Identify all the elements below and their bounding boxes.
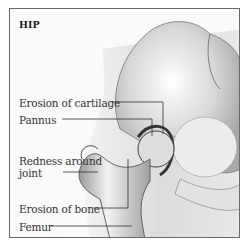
label-pannus: Pannus (19, 114, 56, 126)
label-joint: joint (19, 167, 42, 179)
diagram-title: HIP (19, 19, 40, 30)
label-erosion-of-bone: Erosion of bone (19, 203, 100, 215)
label-femur: Femur (19, 221, 53, 233)
label-erosion-of-cartilage: Erosion of cartilage (19, 97, 120, 109)
hip-diagram-frame: HIP Erosion of cartilage Pannus Redness … (9, 8, 240, 238)
label-redness-around: Redness around (19, 155, 102, 167)
